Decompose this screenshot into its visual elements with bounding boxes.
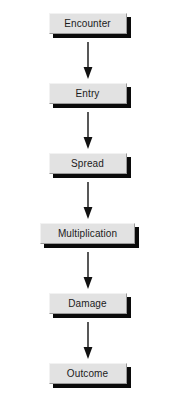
flowchart-node-spread[interactable]: Spread bbox=[0, 153, 175, 174]
node-label: Damage bbox=[68, 299, 106, 309]
flowchart-node-encounter[interactable]: Encounter bbox=[0, 13, 175, 34]
arrow-down-icon bbox=[81, 112, 95, 150]
node-box: Damage bbox=[49, 293, 127, 314]
node-label: Entry bbox=[76, 89, 100, 99]
arrow-down-icon bbox=[81, 182, 95, 220]
flowchart-node-damage[interactable]: Damage bbox=[0, 293, 175, 314]
node-label: Spread bbox=[71, 159, 104, 169]
flowchart-node-entry[interactable]: Entry bbox=[0, 83, 175, 104]
node-box: Outcome bbox=[49, 363, 127, 384]
flowchart-connector-multiplication-to-damage bbox=[0, 252, 175, 290]
node-box: Multiplication bbox=[40, 223, 135, 244]
node-box: Spread bbox=[49, 153, 127, 174]
arrow-down-icon bbox=[81, 252, 95, 290]
flowchart-diagram: Encounter Entry Spread bbox=[0, 0, 175, 405]
node-label: Encounter bbox=[64, 19, 111, 29]
flowchart-connector-damage-to-outcome bbox=[0, 322, 175, 360]
arrow-down-icon bbox=[81, 322, 95, 360]
flowchart-node-outcome[interactable]: Outcome bbox=[0, 363, 175, 384]
node-box: Encounter bbox=[49, 13, 127, 34]
flowchart-connector-spread-to-multiplication bbox=[0, 182, 175, 220]
flowchart-node-multiplication[interactable]: Multiplication bbox=[0, 223, 175, 244]
node-label: Multiplication bbox=[58, 229, 117, 239]
arrow-down-icon bbox=[81, 42, 95, 80]
flowchart-connector-encounter-to-entry bbox=[0, 42, 175, 80]
flowchart-connector-entry-to-spread bbox=[0, 112, 175, 150]
node-label: Outcome bbox=[67, 369, 108, 379]
node-box: Entry bbox=[49, 83, 127, 104]
